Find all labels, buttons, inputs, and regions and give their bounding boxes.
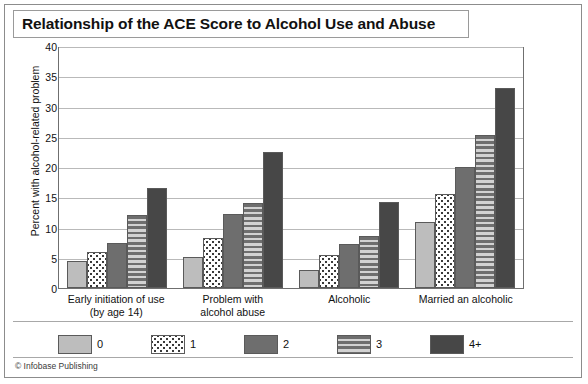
- legend-item[interactable]: 2: [244, 335, 337, 354]
- legend-swatch: [244, 335, 278, 354]
- legend-item[interactable]: 1: [151, 335, 244, 354]
- bar: [415, 222, 435, 288]
- legend-label: 1: [190, 338, 196, 350]
- x-axis-label: Alcoholic: [291, 293, 408, 319]
- bar: [263, 152, 283, 288]
- y-axis-tick-label: 15: [17, 192, 57, 204]
- y-axis-tick-label: 25: [17, 132, 57, 144]
- x-axis-label: Problem withalcohol abuse: [175, 293, 292, 319]
- bar: [339, 244, 359, 288]
- x-axis-labels: Early initiation of use(by age 14)Proble…: [58, 293, 524, 319]
- bar: [87, 252, 107, 288]
- y-axis-tick-label: 5: [17, 253, 57, 265]
- legend-swatch: [151, 335, 185, 354]
- legend-label: 4+: [469, 338, 482, 350]
- legend-label: 3: [376, 338, 382, 350]
- plot-area: [58, 47, 524, 289]
- legend-swatch: [430, 335, 464, 354]
- legend-divider-top: [13, 321, 573, 322]
- legend-swatch: [337, 335, 371, 354]
- bar: [435, 194, 455, 288]
- figure-frame: Relationship of the ACE Score to Alcohol…: [4, 4, 582, 378]
- legend-item[interactable]: 4+: [430, 335, 523, 354]
- bar: [495, 88, 515, 288]
- legend-divider-bottom: [13, 357, 573, 358]
- bar-group: [291, 47, 407, 288]
- y-axis-tick-label: 35: [17, 71, 57, 83]
- bar-group: [407, 47, 523, 288]
- bar: [379, 202, 399, 289]
- bar-groups: [59, 47, 523, 288]
- plot-wrapper: Percent with alcohol-related problem 051…: [5, 5, 583, 379]
- y-axis-tick-label: 30: [17, 102, 57, 114]
- bar: [107, 243, 127, 288]
- x-axis-label: Married an alcoholic: [408, 293, 525, 319]
- legend-item[interactable]: 0: [58, 335, 151, 354]
- bar: [359, 236, 379, 288]
- bar-group: [59, 47, 175, 288]
- bar: [455, 167, 475, 288]
- y-axis-tick-label: 40: [17, 41, 57, 53]
- bar-group: [175, 47, 291, 288]
- bar: [223, 214, 243, 288]
- bar: [127, 215, 147, 288]
- credit-text: © Infobase Publishing: [15, 361, 98, 371]
- bar: [147, 188, 167, 288]
- bar: [203, 238, 223, 288]
- legend-item[interactable]: 3: [337, 335, 430, 354]
- bar: [299, 270, 319, 288]
- bar: [183, 257, 203, 288]
- bar: [67, 261, 87, 288]
- bar: [243, 203, 263, 288]
- y-axis-tick-label: 20: [17, 162, 57, 174]
- legend: 01234+: [58, 331, 524, 357]
- bar: [475, 135, 495, 288]
- y-axis-tick-label: 10: [17, 223, 57, 235]
- legend-swatch: [58, 335, 92, 354]
- y-axis-tick-label: 0: [17, 283, 57, 295]
- x-axis-label: Early initiation of use(by age 14): [58, 293, 175, 319]
- legend-label: 2: [283, 338, 289, 350]
- bar: [319, 255, 339, 288]
- legend-label: 0: [97, 338, 103, 350]
